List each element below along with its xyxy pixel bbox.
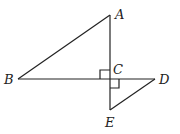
right-angle-mark-dce <box>110 79 119 88</box>
segment-ab <box>18 15 110 79</box>
label-b: B <box>3 72 14 87</box>
label-a: A <box>114 7 124 22</box>
label-e: E <box>104 115 115 130</box>
right-angle-mark-acb <box>100 70 110 79</box>
segment-de <box>110 79 155 110</box>
label-d: D <box>158 72 170 87</box>
label-c: C <box>113 62 123 77</box>
geometry-diagram: A B C D E <box>0 0 180 134</box>
diagram-svg: A B C D E <box>0 0 180 134</box>
